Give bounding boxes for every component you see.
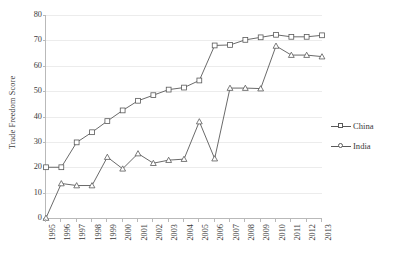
y-axis-tick-label: 0 [20, 214, 42, 222]
data-point [166, 87, 171, 92]
x-axis-tick-label: 2012 [309, 224, 317, 241]
x-axis-tick-mark [214, 219, 215, 222]
data-point [212, 156, 218, 161]
data-point [105, 119, 110, 124]
data-point [182, 85, 187, 90]
series-line [46, 46, 322, 218]
x-axis-tick-label: 1999 [110, 224, 118, 241]
plot-area [45, 15, 322, 219]
x-axis-tick-label: 2006 [217, 224, 225, 241]
data-point [136, 98, 141, 103]
x-axis-tick-label: 2003 [171, 224, 179, 241]
x-axis-tick-mark [76, 219, 77, 222]
x-axis-tick-label: 2000 [125, 224, 133, 241]
x-axis-tick-label: 2009 [263, 224, 271, 241]
data-point [151, 93, 156, 98]
legend-item-india[interactable]: India [331, 136, 391, 156]
data-point [120, 108, 125, 113]
x-axis-tick-mark [275, 219, 276, 222]
legend-label: India [351, 142, 371, 151]
data-point [289, 34, 294, 39]
trade-freedom-score-line-chart: Trade Freedom Score 01020304050607080 19… [0, 0, 394, 263]
y-axis-tick-label: 70 [20, 36, 42, 44]
data-point [304, 34, 309, 39]
plot-series-svg [46, 15, 322, 218]
series-india [43, 43, 325, 220]
legend-label: China [351, 122, 374, 131]
y-axis-tick-label: 40 [20, 113, 42, 121]
x-axis-tick-label: 2002 [156, 224, 164, 241]
data-point [273, 43, 279, 48]
x-axis-tick-mark [45, 219, 46, 222]
x-axis-tick-label: 2007 [233, 224, 241, 241]
x-axis-tick-mark [122, 219, 123, 222]
data-point [196, 119, 202, 124]
x-axis-tick-group: 1995199619971998199920002001200220032004… [45, 219, 321, 263]
y-axis-tick-group: 01020304050607080 [18, 15, 42, 218]
x-axis-tick-mark [290, 219, 291, 222]
x-axis-tick-mark [168, 219, 169, 222]
x-axis-tick-mark [106, 219, 107, 222]
x-axis-tick-mark [183, 219, 184, 222]
x-axis-tick-mark [244, 219, 245, 222]
data-point [197, 78, 202, 83]
x-axis-tick-label: 2013 [325, 224, 333, 241]
data-point [59, 165, 64, 170]
data-point [90, 130, 95, 135]
data-point [274, 32, 279, 37]
data-point [320, 33, 325, 38]
x-axis-tick-label: 2008 [248, 224, 256, 241]
x-axis-tick-label: 2011 [294, 224, 302, 240]
data-point [104, 154, 110, 159]
x-axis-tick-label: 2004 [187, 224, 195, 241]
y-axis-tick-label: 50 [20, 87, 42, 95]
chart-legend: ChinaIndia [331, 116, 391, 156]
y-axis-tick-label: 20 [20, 163, 42, 171]
x-axis-tick-mark [152, 219, 153, 222]
x-axis-tick-label: 1996 [64, 224, 72, 241]
x-axis-tick-label: 1995 [49, 224, 57, 241]
x-axis-tick-label: 2010 [279, 224, 287, 241]
x-axis-tick-label: 2005 [202, 224, 210, 241]
x-axis-tick-mark [306, 219, 307, 222]
data-point [74, 140, 79, 145]
y-axis-tick-label: 10 [20, 189, 42, 197]
x-axis-tick-label: 2001 [141, 224, 149, 241]
data-point [258, 35, 263, 40]
x-axis-tick-mark [60, 219, 61, 222]
x-axis-tick-mark [91, 219, 92, 222]
series-line [46, 35, 322, 167]
legend-point-icon [338, 123, 343, 128]
legend-marker-icon [331, 121, 351, 131]
y-axis-tick-label: 80 [20, 11, 42, 19]
x-axis-tick-mark [229, 219, 230, 222]
data-point [212, 43, 217, 48]
legend-point-icon [338, 143, 343, 148]
y-axis-tick-label: 60 [20, 62, 42, 70]
legend-item-china[interactable]: China [331, 116, 391, 136]
data-point [135, 151, 141, 156]
x-axis-tick-mark [137, 219, 138, 222]
x-axis-tick-mark [198, 219, 199, 222]
data-point [228, 43, 233, 48]
data-point [58, 181, 64, 186]
x-axis-tick-mark [260, 219, 261, 222]
y-axis-tick-label: 30 [20, 138, 42, 146]
data-point [44, 165, 49, 170]
data-point [243, 37, 248, 42]
series-china [44, 32, 325, 169]
legend-marker-icon [331, 141, 351, 151]
x-axis-tick-label: 1997 [79, 224, 87, 241]
x-axis-tick-label: 1998 [95, 224, 103, 241]
y-axis-title-label: Trade Freedom Score [9, 76, 18, 150]
x-axis-tick-mark [321, 219, 322, 222]
